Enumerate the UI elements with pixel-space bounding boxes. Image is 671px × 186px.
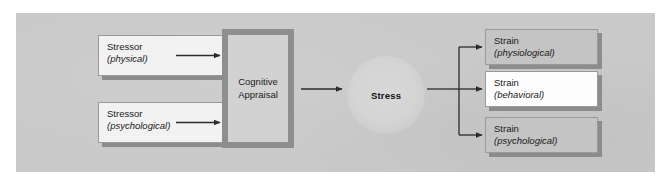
node-strain-physiological[interactable]: Strain (physiological): [485, 29, 598, 65]
strain-psychological-line1: Strain: [494, 123, 597, 135]
node-strain-behavioral[interactable]: Strain (behavioral): [485, 71, 598, 107]
stress-label: Stress: [371, 90, 401, 101]
strain-physiological-line1: Strain: [494, 35, 597, 47]
cognitive-appraisal-text: Cognitive Appraisal: [238, 76, 278, 101]
cognitive-appraisal-line2: Appraisal: [238, 89, 278, 100]
cognitive-appraisal-line1: Cognitive: [238, 76, 278, 87]
strain-behavioral-line2: (behavioral): [494, 89, 597, 101]
strain-psychological-line2: (psychological): [494, 135, 597, 147]
node-strain-psychological[interactable]: Strain (psychological): [485, 117, 598, 153]
node-stress[interactable]: Stress: [347, 56, 425, 134]
strain-behavioral-line1: Strain: [494, 77, 597, 89]
node-cognitive-appraisal[interactable]: Cognitive Appraisal: [222, 29, 294, 148]
strain-physiological-line2: (physiological): [494, 47, 597, 59]
figure-panel: Stressor (physical) Stressor (psychologi…: [16, 13, 655, 172]
